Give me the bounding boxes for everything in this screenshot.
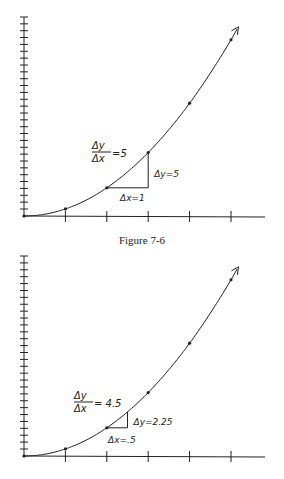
data-point <box>22 454 25 457</box>
curve <box>24 269 237 456</box>
data-point <box>188 102 191 105</box>
slope-numerator: Δy <box>73 390 88 401</box>
chart-top: ΔyΔx=5Δy=5Δx=1 <box>20 17 265 222</box>
slope-denominator: Δx <box>73 403 87 414</box>
figure-caption: Figure 7-6 <box>0 234 284 246</box>
x-axis <box>24 216 265 217</box>
slope-denominator: Δx <box>91 153 105 164</box>
data-point <box>147 391 150 394</box>
data-point <box>229 38 232 41</box>
data-point <box>22 214 25 217</box>
slope-numerator: Δy <box>91 140 106 151</box>
data-point <box>188 342 191 345</box>
data-point <box>64 207 67 210</box>
chart-bottom: ΔyΔx= 4.5Δy=2.25Δx=.5 <box>20 256 265 462</box>
data-point <box>64 447 67 450</box>
slope-value: = 4.5 <box>94 398 121 409</box>
delta-y-label: Δy=2.25 <box>133 417 173 427</box>
delta-x-label: Δx=.5 <box>107 435 136 445</box>
delta-y-label: Δy=5 <box>153 169 179 179</box>
data-point <box>229 278 232 281</box>
x-axis <box>24 456 265 457</box>
delta-x-label: Δx=1 <box>119 193 145 203</box>
slope-value: =5 <box>112 148 127 159</box>
